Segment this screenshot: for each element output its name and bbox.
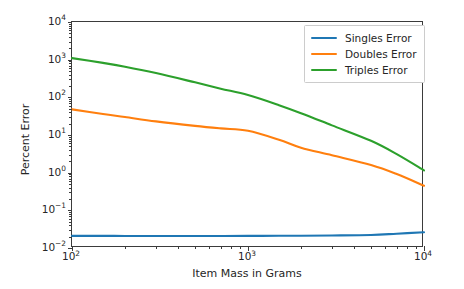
legend-swatch-icon [311, 53, 337, 55]
y-tick-minor [69, 214, 72, 215]
legend-swatch-icon [311, 69, 337, 71]
x-tick-minor [125, 246, 126, 249]
series-line-0 [72, 232, 424, 236]
y-tick-minor [69, 71, 72, 72]
x-tick-minor [416, 246, 417, 249]
legend-label: Doubles Error [345, 49, 417, 60]
x-tick-minor [397, 246, 398, 249]
y-tick-minor [69, 48, 72, 49]
y-tick-label: 103 [48, 53, 66, 64]
x-tick-minor [301, 246, 302, 249]
y-tick-minor [69, 61, 72, 62]
y-tick-minor [69, 68, 72, 69]
x-tick-minor [156, 246, 157, 249]
x-tick-label: 104 [414, 251, 432, 262]
x-axis-title: Item Mass in Grams [71, 268, 423, 279]
y-tick-minor [69, 188, 72, 189]
legend-swatch-icon [311, 37, 337, 39]
y-tick-minor [69, 174, 72, 175]
y-tick-minor [69, 222, 72, 223]
y-tick-minor [69, 237, 72, 238]
x-tick-minor [209, 246, 210, 249]
y-axis-tick-labels: 10−210−1100101102103104 [0, 21, 66, 247]
y-tick-minor [69, 86, 72, 87]
x-tick-label: 102 [62, 251, 80, 262]
y-tick-minor [69, 75, 72, 76]
y-tick-minor [69, 79, 72, 80]
y-tick-minor [69, 112, 72, 113]
y-tick-label: 100 [48, 166, 66, 177]
x-tick-minor [195, 246, 196, 249]
x-axis-tick-labels: 102103104 [71, 251, 423, 267]
legend-label: Singles Error [345, 33, 412, 44]
y-tick-minor [69, 179, 72, 180]
legend: Singles ErrorDoubles ErrorTriples Error [304, 25, 425, 83]
y-tick-minor [69, 181, 72, 182]
y-tick-label: 10−1 [42, 204, 66, 215]
y-tick-minor [69, 137, 72, 138]
x-tick-minor [371, 246, 372, 249]
y-tick-minor [69, 184, 72, 185]
y-tick-minor [69, 26, 72, 27]
y-tick-minor [69, 63, 72, 64]
x-tick-minor [178, 246, 179, 249]
y-tick-minor [69, 212, 72, 213]
y-tick-minor [69, 117, 72, 118]
y-tick-minor [69, 99, 72, 100]
x-tick-minor [240, 246, 241, 249]
y-tick-minor [69, 225, 72, 226]
legend-label: Triples Error [345, 65, 408, 76]
y-tick-minor [69, 109, 72, 110]
y-tick-minor [69, 216, 72, 217]
y-tick-minor [69, 66, 72, 67]
y-tick-label: 104 [48, 16, 66, 27]
chart-figure: Percent Error 10−210−1100101102103104 10… [0, 0, 464, 289]
y-tick-minor [69, 106, 72, 107]
y-tick-minor [69, 230, 72, 231]
y-tick-label: 102 [48, 91, 66, 102]
legend-item[interactable]: Singles Error [311, 30, 417, 46]
x-tick-minor [385, 246, 386, 249]
y-tick-minor [69, 161, 72, 162]
y-tick-minor [69, 146, 72, 147]
y-tick-minor [69, 124, 72, 125]
y-tick-minor [69, 150, 72, 151]
legend-item[interactable]: Triples Error [311, 62, 417, 78]
y-tick-minor [69, 199, 72, 200]
y-tick-minor [69, 101, 72, 102]
x-tick-minor [354, 246, 355, 249]
y-tick-minor [69, 42, 72, 43]
y-tick-minor [69, 103, 72, 104]
y-tick-minor [69, 30, 72, 31]
y-tick-minor [69, 219, 72, 220]
y-tick-minor [69, 141, 72, 142]
x-tick-minor [221, 246, 222, 249]
x-tick-minor [231, 246, 232, 249]
series-line-1 [72, 109, 424, 185]
y-tick-minor [69, 143, 72, 144]
y-tick-minor [69, 192, 72, 193]
x-tick-label: 103 [238, 251, 256, 262]
y-tick-minor [69, 24, 72, 25]
legend-item[interactable]: Doubles Error [311, 46, 417, 62]
y-tick-minor [69, 176, 72, 177]
x-tick-minor [332, 246, 333, 249]
y-tick-minor [69, 28, 72, 29]
x-tick-minor [407, 246, 408, 249]
y-tick-minor [69, 33, 72, 34]
y-tick-minor [69, 37, 72, 38]
y-tick-minor [69, 139, 72, 140]
y-tick-minor [69, 155, 72, 156]
y-tick-label: 101 [48, 129, 66, 140]
